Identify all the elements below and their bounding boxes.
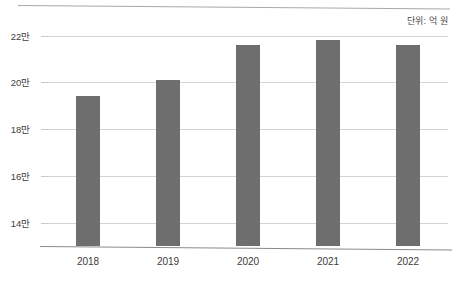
plot-area: 14만16만18만20만22만 20182019202020212022 [48,24,448,248]
y-tick-label: 18만 [11,122,30,136]
scan-rule-divider [18,5,450,9]
y-tick-mark [41,82,48,83]
y-tick-mark [41,36,48,37]
x-tick-label-2022: 2022 [397,256,419,267]
x-tick-label-2021: 2021 [317,256,339,267]
y-tick-mark [41,129,48,130]
x-axis-baseline [40,246,452,251]
y-tick-mark [41,223,48,224]
y-tick-mark [41,176,48,177]
bar-2020 [236,45,260,246]
bar-2022 [396,45,420,246]
x-tick-label-2020: 2020 [237,256,259,267]
y-tick-label: 14만 [11,216,30,230]
bar-2021 [316,40,340,246]
gridline [48,36,448,37]
bar-2019 [156,80,180,246]
y-tick-label: 20만 [11,75,30,89]
x-tick-label-2018: 2018 [77,256,99,267]
y-tick-label: 16만 [11,169,30,183]
bar-2018 [76,96,100,246]
bar-chart: 단위: 억 원 14만16만18만20만22만 2018201920202021… [0,0,461,287]
x-tick-label-2019: 2019 [157,256,179,267]
y-tick-label: 22만 [11,29,30,43]
